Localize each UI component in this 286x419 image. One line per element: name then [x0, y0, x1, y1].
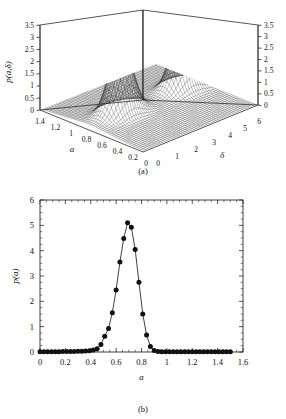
data-point	[95, 346, 100, 351]
z-axis-left: 0 0.5 1 1.5 2 2.5 3 3.5	[25, 21, 40, 115]
x-tick-label: 0	[38, 357, 42, 367]
data-markers	[38, 220, 233, 354]
data-point	[121, 236, 126, 241]
panel-a-surface-plot: 0 0.5 1 1.5 2 2.5 3 3.5 p(a,δ)	[0, 0, 286, 178]
y-tick-label: 0	[30, 347, 34, 357]
z-tick-left-1p5: 1.5	[25, 69, 35, 78]
z-tick-left-2: 2	[30, 57, 34, 66]
x-tick-label: 1.2	[187, 357, 198, 367]
a-tick-0p6: 0.6	[97, 141, 107, 150]
a-tick-0p2: 0.2	[128, 153, 138, 162]
z-axis-label: p(a,δ)	[3, 61, 13, 83]
z-tick-left-3p5: 3.5	[25, 21, 35, 30]
data-point	[117, 260, 122, 265]
a-tick-0p4: 0.4	[113, 147, 123, 156]
a-tick-1p4: 1.4	[35, 117, 45, 126]
a-tick-1: 1	[69, 129, 73, 138]
z-tick-right-1p5: 1.5	[264, 66, 274, 75]
a-tick-0p8: 0.8	[82, 135, 92, 144]
z-tick-left-2p5: 2.5	[25, 45, 35, 54]
z-tick-left-0p5: 0.5	[25, 94, 35, 103]
delta-axis-label: δ	[220, 150, 225, 160]
delta-tick-6: 6	[257, 117, 261, 126]
x-tick-label: 0.2	[60, 357, 71, 367]
y-axis-ticks	[40, 200, 243, 352]
z-tick-right-0: 0	[264, 101, 268, 110]
mesh-gridline-delta	[143, 103, 258, 150]
delta-tick-5: 5	[243, 124, 247, 133]
caption-panel-a: (a)	[0, 166, 286, 176]
x-tick-label: 0.6	[111, 357, 122, 367]
surface-plot-svg: 0 0.5 1 1.5 2 2.5 3 3.5 p(a,δ)	[0, 0, 286, 178]
z-tick-left-3: 3	[30, 33, 34, 42]
y-tick-label: 1	[30, 322, 34, 332]
z-tick-right-3p5: 3.5	[264, 21, 274, 30]
delta-tick-1: 1	[175, 152, 179, 161]
line-plot-svg: 00.20.40.60.811.21.41.6 0123456 a p(a)	[0, 182, 286, 404]
panel-b-line-plot: 00.20.40.60.811.21.41.6 0123456 a p(a)	[0, 182, 286, 404]
z-tick-right-0p5: 0.5	[264, 89, 274, 98]
data-point	[148, 344, 153, 349]
figure-container: 0 0.5 1 1.5 2 2.5 3 3.5 p(a,δ)	[0, 0, 286, 419]
y-tick-label: 3	[30, 271, 34, 281]
delta-axis-3d: 0 1 2 3 4 5 6 δ	[156, 117, 261, 168]
mesh-gridline-delta	[141, 102, 256, 149]
y-tick-label: 6	[30, 195, 34, 205]
data-point	[129, 225, 134, 230]
y-axis-label: p(a)	[10, 269, 20, 285]
data-point	[133, 247, 138, 252]
x-axis-tick-labels: 00.20.40.60.811.21.41.6	[38, 357, 248, 367]
mesh-gridline-a	[51, 104, 154, 146]
data-point	[98, 342, 103, 347]
y-axis-tick-labels: 0123456	[30, 195, 35, 357]
data-point	[228, 349, 233, 354]
delta-tick-2: 2	[194, 145, 198, 154]
delta-tick-4: 4	[228, 131, 232, 140]
z-tick-right-2: 2	[264, 55, 268, 64]
data-point	[114, 287, 119, 292]
x-tick-label: 1.4	[212, 357, 223, 367]
plot-frame	[40, 200, 243, 352]
data-point	[110, 310, 115, 315]
delta-tick-3: 3	[212, 138, 216, 147]
x-axis-ticks	[40, 200, 243, 352]
data-point	[102, 334, 107, 339]
caption-panel-b: (b)	[0, 404, 286, 414]
y-tick-label: 4	[30, 246, 35, 256]
x-tick-label: 0.4	[85, 357, 96, 367]
z-tick-right-1: 1	[264, 78, 268, 87]
z-tick-left-1: 1	[30, 81, 34, 90]
data-curve	[40, 223, 230, 352]
z-axis-right: 0 0.5 1 1.5 2 2.5 3 3.5	[258, 21, 274, 110]
x-tick-label: 1.6	[238, 357, 249, 367]
y-tick-label: 2	[30, 296, 34, 306]
a-tick-1p2: 1.2	[51, 123, 61, 132]
data-point	[144, 333, 149, 338]
x-tick-label: 1	[165, 357, 169, 367]
x-tick-label: 0.8	[136, 357, 147, 367]
z-tick-right-2p5: 2.5	[264, 43, 274, 52]
data-point	[106, 326, 111, 331]
a-axis-label: a	[70, 144, 75, 154]
x-axis-label: a	[139, 372, 144, 382]
z-tick-right-3: 3	[264, 32, 268, 41]
data-point	[125, 220, 130, 225]
z-tick-left-0: 0	[30, 106, 34, 115]
y-tick-label: 5	[30, 220, 34, 230]
data-point	[136, 280, 141, 285]
data-point	[140, 312, 145, 317]
